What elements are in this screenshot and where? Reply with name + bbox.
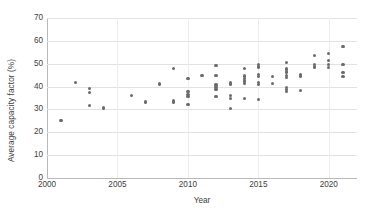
- data-point: [243, 67, 246, 70]
- data-point: [229, 107, 232, 110]
- data-point: [200, 74, 203, 77]
- gridline-horizontal: [47, 18, 357, 19]
- x-tick-label: 2010: [179, 180, 197, 189]
- x-tick-label: 2020: [320, 180, 338, 189]
- data-point: [172, 67, 175, 70]
- x-axis-line: [47, 178, 357, 179]
- gridline-horizontal: [47, 132, 357, 133]
- data-point: [327, 59, 330, 62]
- y-axis-tick-labels: 010203040506070: [0, 0, 43, 221]
- y-tick-label: 20: [3, 128, 43, 136]
- data-point: [285, 90, 288, 93]
- data-point: [257, 98, 260, 101]
- data-point: [88, 87, 91, 90]
- x-tick-label: 2005: [108, 180, 126, 189]
- gridline-horizontal: [47, 41, 357, 42]
- data-point: [102, 106, 105, 109]
- data-point: [341, 75, 344, 78]
- data-point: [257, 65, 260, 68]
- data-point: [59, 119, 62, 122]
- x-tick-label: 2000: [38, 180, 56, 189]
- y-tick-label: 40: [3, 82, 43, 90]
- data-point: [186, 77, 189, 80]
- data-point: [341, 63, 344, 66]
- data-point: [214, 64, 217, 67]
- data-point: [243, 82, 246, 85]
- data-point: [88, 104, 91, 107]
- gridline-horizontal: [47, 87, 357, 88]
- data-point: [144, 101, 147, 104]
- scatter-chart: Average capacity factor (%) 010203040506…: [0, 0, 367, 221]
- data-point: [214, 95, 217, 98]
- data-point: [299, 89, 302, 92]
- data-point: [341, 71, 344, 74]
- data-point: [88, 91, 91, 94]
- gridline-vertical: [117, 18, 118, 178]
- data-point: [130, 94, 133, 97]
- data-point: [313, 54, 316, 57]
- plot-area: [47, 18, 357, 178]
- data-point: [285, 76, 288, 79]
- gridline-vertical: [329, 18, 330, 178]
- data-point: [229, 97, 232, 100]
- y-tick-label: 30: [3, 105, 43, 113]
- data-point: [158, 82, 161, 85]
- data-point: [214, 88, 217, 91]
- data-point: [327, 66, 330, 69]
- data-point: [313, 66, 316, 69]
- y-tick-label: 60: [3, 37, 43, 45]
- y-tick-label: 50: [3, 60, 43, 68]
- data-point: [172, 101, 175, 104]
- data-point: [186, 103, 189, 106]
- gridline-horizontal: [47, 155, 357, 156]
- y-tick-label: 10: [3, 151, 43, 159]
- data-point: [271, 82, 274, 85]
- gridline-horizontal: [47, 64, 357, 65]
- data-point: [186, 95, 189, 98]
- data-point: [257, 75, 260, 78]
- data-point: [214, 74, 217, 77]
- data-point: [243, 97, 246, 100]
- data-point: [74, 81, 77, 84]
- data-point: [271, 75, 274, 78]
- y-tick-label: 70: [3, 14, 43, 22]
- data-point: [341, 45, 344, 48]
- gridline-horizontal: [47, 109, 357, 110]
- data-point: [299, 74, 302, 77]
- x-axis-title: Year: [47, 196, 357, 205]
- x-tick-label: 2015: [249, 180, 267, 189]
- data-point: [327, 52, 330, 55]
